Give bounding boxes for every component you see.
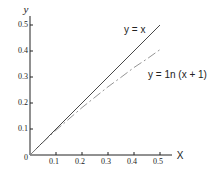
y-tick-label: 0.3 (18, 72, 28, 81)
series-line-identity (30, 25, 160, 155)
x-tick-label: 0.3 (101, 157, 111, 166)
series-line-log (30, 50, 160, 155)
x-tick-label: 0.1 (49, 157, 59, 166)
y-tick-label: 0.1 (18, 124, 28, 133)
series-label-identity: y = x (124, 24, 145, 35)
y-axis-label: y (23, 3, 29, 15)
y-tick-label: 0.4 (18, 46, 28, 55)
origin-label: 0 (24, 153, 28, 162)
x-tick-label: 0.4 (127, 157, 137, 166)
series-label-log: y = 1n (x + 1) (148, 69, 207, 80)
y-tick-label: 0.2 (18, 98, 28, 107)
x-tick-label: 0.5 (153, 157, 163, 166)
function-comparison-chart: 0.1 0.2 0.3 0.4 0.5 0 0.1 0.2 0.3 0.4 0.… (0, 0, 211, 184)
y-tick-label: 0.5 (18, 20, 28, 29)
x-axis-label: X (177, 150, 184, 161)
x-tick-label: 0.2 (75, 157, 85, 166)
